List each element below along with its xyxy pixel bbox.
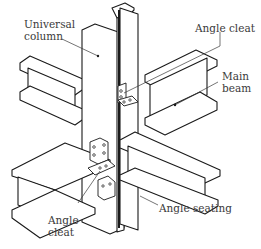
label-angle-seating: Angle seating [159, 202, 232, 214]
universal-column [82, 3, 138, 234]
label-universal-column: Universal column [24, 18, 75, 42]
steel-connection-diagram: Universal column Angle cleat Main beam A… [0, 0, 261, 249]
label-main-beam: Main beam [222, 70, 251, 94]
main-beam [145, 50, 217, 135]
label-angle-cleat-top: Angle cleat [195, 22, 255, 34]
beam-back-left [20, 56, 85, 125]
label-angle-cleat-bottom: Angle cleat [48, 214, 79, 238]
